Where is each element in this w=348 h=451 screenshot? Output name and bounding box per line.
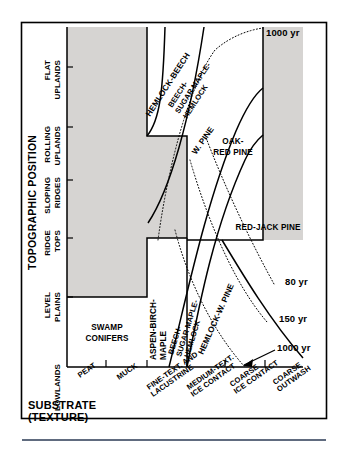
y-label-rolling-uplands-line1: ROLLING xyxy=(43,126,52,163)
zone-label-red-jack-pine: RED-JACK PINE xyxy=(236,223,301,232)
y-label-ridge-tops-line1: RIDGE xyxy=(43,229,52,255)
y-label-sloping-ridges-line1: SLOPING xyxy=(43,177,52,214)
zone-label-oak-red-pine-line1: OAK- xyxy=(222,137,243,146)
y-label-level-plains-line1: LEVEL xyxy=(43,292,52,318)
isochrone-1000yr-upper-label: 1000 yr xyxy=(266,27,300,38)
diagram-canvas: TOPOGRAPHIC POSITION FLAT UPLANDS ROLLIN… xyxy=(0,0,348,451)
x-axis-title-line1: SUBSTRATE xyxy=(28,399,96,411)
y-label-sloping-ridges-line2: RIDGES xyxy=(53,176,62,208)
zone-label-aspen-birch-maple-line2: MAPLE xyxy=(159,330,168,360)
isochrone-150yr-label: 150 yr xyxy=(279,313,307,324)
y-label-rolling-uplands-line2: UPLANDS xyxy=(53,125,62,165)
y-label-ridge-tops-line2: TOPS xyxy=(53,229,62,252)
isochrone-80yr-label: 80 yr xyxy=(285,276,308,287)
zone-label-swamp-conifers-line2: CONIFERS xyxy=(85,334,129,343)
zone-label-swamp-conifers-line1: SWAMP xyxy=(91,323,123,332)
y-label-flat-uplands-line2: UPLANDS xyxy=(53,59,62,99)
isochrone-1000yr-lower-label: 1000 yr xyxy=(277,342,311,353)
figure-container: TOPOGRAPHIC POSITION FLAT UPLANDS ROLLIN… xyxy=(0,0,348,451)
y-label-flat-uplands-line1: FLAT xyxy=(43,60,52,80)
zone-label-aspen-birch-maple-line1: ASPEN-BIRCH- xyxy=(149,299,158,360)
zone-label-oak-red-pine-line2: RED PINE xyxy=(213,148,253,157)
x-axis-title-line2: (TEXTURE) xyxy=(28,411,89,423)
y-label-level-plains-line2: PLAINS xyxy=(53,291,62,321)
y-axis-title: TOPOGRAPHIC POSITION xyxy=(26,135,38,270)
shaded-right-block xyxy=(263,27,303,240)
